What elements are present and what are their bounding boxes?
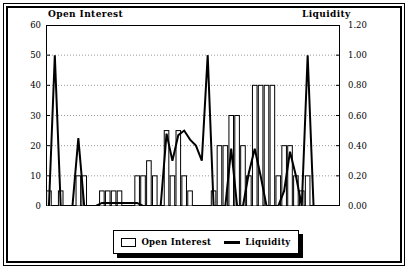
bar [188,191,193,206]
bar [264,85,269,206]
chart-screenshot: Open Interest Liquidity 0102030405060 0.… [0,0,408,269]
left-tick-50: 50 [19,50,41,60]
right-tick-1.20: 1.20 [348,20,382,30]
right-tick-1.00: 1.00 [348,50,382,60]
bar [76,176,81,206]
bar [305,176,310,206]
chart-legend: Open Interest Liquidity [113,230,299,254]
bar [170,176,175,206]
right-tick-0.20: 0.20 [348,171,382,181]
legend-item-liquidity: Liquidity [224,237,290,247]
right-tick-0.80: 0.80 [348,80,382,90]
bar [270,85,275,206]
left-tick-40: 40 [19,80,41,90]
bar [252,85,257,206]
left-tick-0: 0 [19,201,41,211]
left-axis-title: Open Interest [48,9,123,19]
right-axis-title: Liquidity [302,9,351,19]
right-tick-0.40: 0.40 [348,141,382,151]
legend-label-open-interest: Open Interest [141,237,211,247]
left-tick-20: 20 [19,141,41,151]
bar [141,176,146,206]
plot-area [46,25,340,206]
left-tick-30: 30 [19,111,41,121]
left-tick-60: 60 [19,20,41,30]
legend-label-liquidity: Liquidity [245,237,290,247]
bar [182,176,187,206]
bar [217,146,222,206]
bar [147,161,152,206]
bar [135,176,140,206]
legend-box: Open Interest Liquidity [113,230,299,254]
right-tick-0.00: 0.00 [348,201,382,211]
legend-item-open-interest: Open Interest [121,237,211,247]
line-swatch-icon [224,241,240,244]
chart-canvas [46,25,340,206]
right-tick-0.60: 0.60 [348,111,382,121]
bar [152,176,157,206]
bar-swatch-icon [121,238,136,247]
left-tick-10: 10 [19,171,41,181]
